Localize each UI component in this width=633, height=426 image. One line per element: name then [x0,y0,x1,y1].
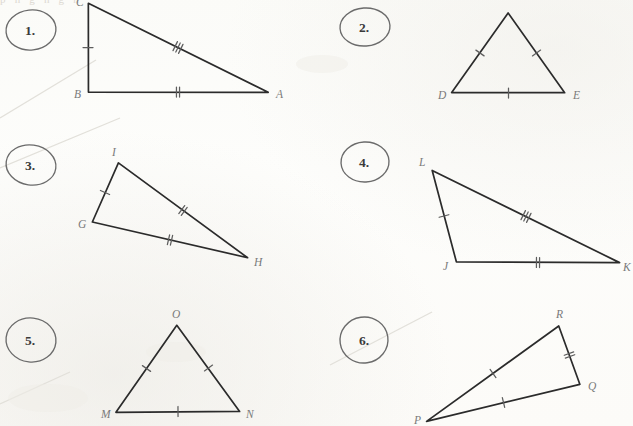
vertex-label-q: Q [588,380,597,392]
problem-6: 6.RQP [337,308,597,426]
vertex-label-h: H [253,256,263,268]
problem-1: 1.CBA [4,0,284,100]
vertex-label-k: K [622,261,632,273]
problem-number-label: 2. [359,20,369,35]
tick-marks-pr [490,369,496,377]
vertex-label-g: G [78,218,87,230]
vertex-label-d: D [437,89,447,101]
vertex-label-c: C [76,0,84,8]
tick-marks-ca [173,42,183,54]
vertex-label-e: E [572,89,580,101]
problem-number-label: 1. [25,23,35,38]
problem-number-label: 4. [359,155,369,170]
diagonal-streak-problem-six [330,312,432,365]
problem-2: 2.DE [339,6,580,101]
vertex-label-i: I [111,146,117,158]
vertex-label-r: R [555,308,563,320]
vertex-label-a: A [275,88,284,100]
vertex-label-o: O [172,308,181,320]
tick-mark [476,50,484,56]
problem-number-label: 5. [25,333,35,348]
diagonal-streak-lower-left [0,60,96,118]
vertex-label-m: M [100,408,112,420]
scan-artifacts-layer [0,60,432,404]
tick-marks-lk [521,211,531,223]
tick-marks-apexe [532,50,540,56]
problem-number-label: 6. [359,333,369,348]
vertex-label-p: P [413,414,421,426]
diagonal-streak-upper-left [0,118,120,168]
tick-mark [142,366,150,372]
triangle-canvas: 1.CBA2.DE3.IGH4.LJK5.OMN6.RQP [0,0,633,426]
vertex-label-n: N [245,408,255,420]
triangle-outline [427,326,580,421]
triangle-outline [116,325,240,412]
triangle-outline [452,13,565,93]
vertex-label-b: B [74,88,81,100]
paper-smudges [8,55,348,412]
vertex-label-j: J [443,260,449,272]
triangle-outline [92,163,247,258]
tick-mark [532,50,540,56]
tick-marks-apexd [476,50,484,56]
problem-number-label: 3. [25,158,35,173]
vertex-label-l: L [418,156,425,168]
tick-marks-om [142,366,150,372]
tick-mark [490,369,496,377]
problem-4: 4.LJK [340,141,632,273]
problem-3: 3.IGH [3,142,263,268]
